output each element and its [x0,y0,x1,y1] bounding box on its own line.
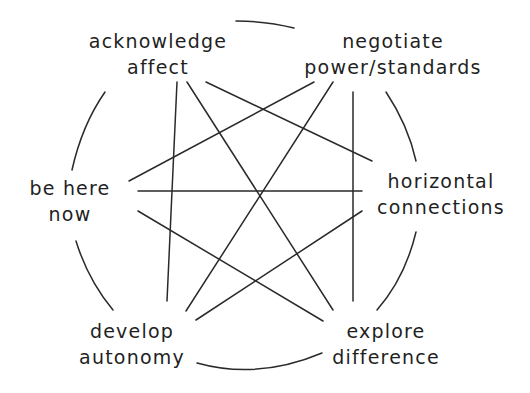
node-label-line1: explore [332,318,440,344]
node-label-line2: now [29,201,110,227]
node-label-line2: connections [377,194,505,220]
node-label-line2: autonomy [79,344,185,370]
node-label-line2: difference [332,344,440,370]
node-acknowledge-affect: acknowledge affect [89,28,227,80]
node-develop-autonomy: develop autonomy [79,318,185,370]
node-label-line1: develop [79,318,185,344]
node-label-line2: affect [89,54,227,80]
node-label-line1: negotiate [304,28,481,54]
edge-benow-explore [138,211,323,321]
ring-arc-bottom [197,353,322,370]
ring-arc-right-bottom [377,232,416,310]
ring-arc-left-bottom [76,241,113,310]
node-negotiate-power: negotiate power/standards [304,28,481,80]
node-label-line2: power/standards [304,54,481,80]
node-horizontal-connections: horizontal connections [377,168,505,220]
ring-arc-top [236,21,294,28]
edge-acknowledge-horizontal [206,82,372,161]
node-label-line1: be here [29,175,110,201]
ring-arc-left-top [72,92,105,170]
node-label-line1: horizontal [377,168,505,194]
edge-horizontal-develop [196,211,362,320]
ring-arc-right-top [386,92,416,161]
edge-negotiate-benow [129,82,314,181]
node-explore-difference: explore difference [332,318,440,370]
node-label-line1: acknowledge [89,28,227,54]
node-be-here-now: be here now [29,175,110,227]
network-diagram: acknowledge affect negotiate power/stand… [0,0,530,393]
